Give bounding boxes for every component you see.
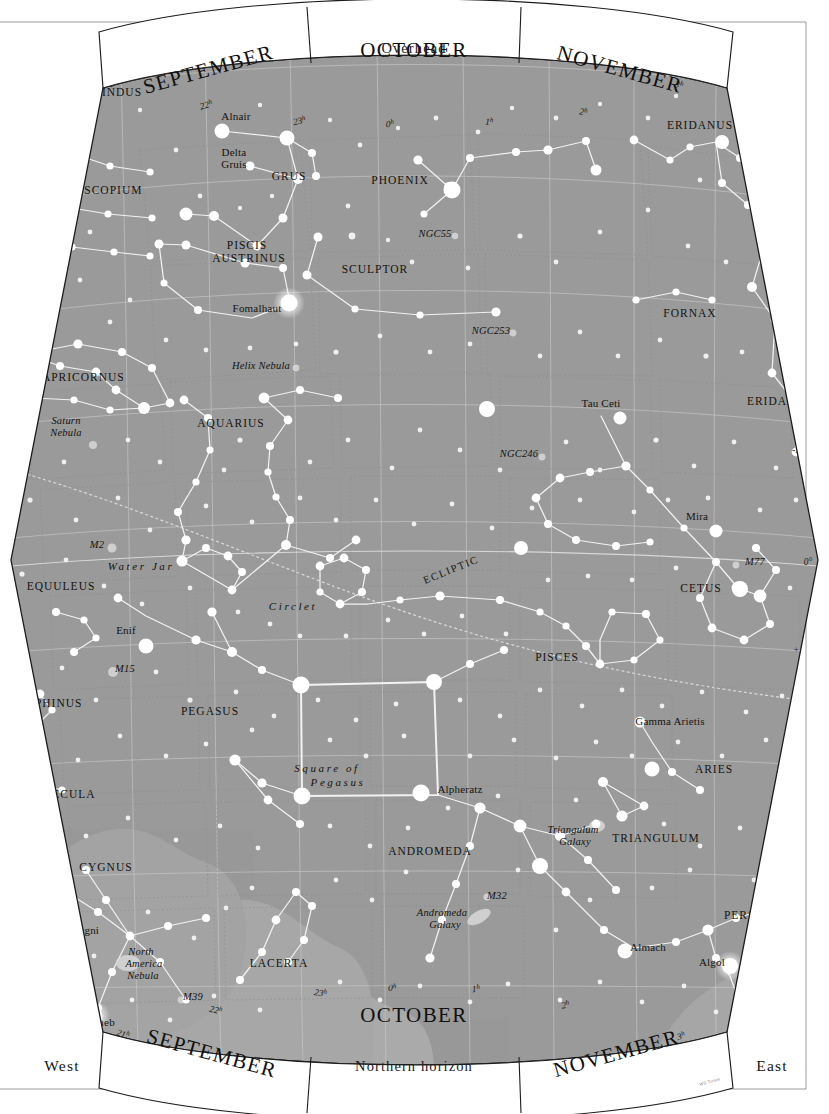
sky-area: INDUSMICROSCOPIUMGRUSPHOENIXERIDANUSPISC… [0,0,829,1114]
star-chart-page: INDUSMICROSCOPIUMGRUSPHOENIXERIDANUSPISC… [0,0,829,1114]
east-label: East [756,1057,788,1074]
month-october-bottom: OCTOBER [360,1003,467,1027]
overhead-label: Overhead [381,40,446,56]
west-label: West [44,1057,79,1074]
star-chart-svg: INDUSMICROSCOPIUMGRUSPHOENIXERIDANUSPISC… [0,0,829,1114]
northern-horizon-label: Northern horizon [355,1058,473,1074]
